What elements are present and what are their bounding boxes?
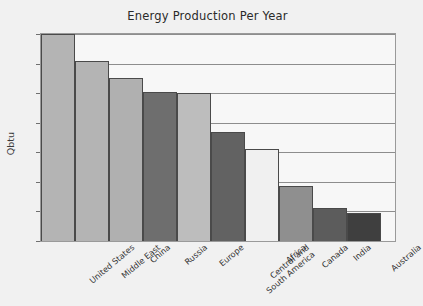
y-tick-mark	[36, 182, 40, 183]
bar	[245, 149, 279, 241]
bar	[177, 93, 211, 241]
y-tick-mark	[36, 123, 40, 124]
bar	[41, 34, 75, 241]
x-axis-labels: United StatesMiddle EastChinaRussiaEurop…	[41, 243, 395, 305]
x-tick-label: Canada	[320, 243, 350, 270]
y-tick-mark	[36, 34, 40, 35]
y-axis-label: Qbtu	[5, 124, 16, 164]
bar	[211, 132, 245, 241]
y-tick-mark	[36, 64, 40, 65]
x-tick-label: Central and South America	[259, 243, 317, 296]
bar	[143, 92, 177, 241]
bar	[279, 186, 313, 241]
y-tick-mark	[36, 211, 40, 212]
y-tick-mark	[36, 93, 40, 94]
bar	[313, 208, 347, 241]
bar	[109, 78, 143, 241]
y-tick-mark	[36, 152, 40, 153]
x-tick-label: Europe	[218, 243, 246, 269]
bar	[347, 213, 381, 241]
bar	[75, 61, 109, 241]
x-tick-label: India	[352, 243, 373, 263]
chart-title: Energy Production Per Year	[0, 9, 415, 23]
x-tick-label: Australia	[389, 243, 423, 273]
x-tick-label: Russia	[183, 243, 209, 267]
bar-series	[41, 34, 395, 241]
y-tick-mark	[36, 241, 40, 242]
